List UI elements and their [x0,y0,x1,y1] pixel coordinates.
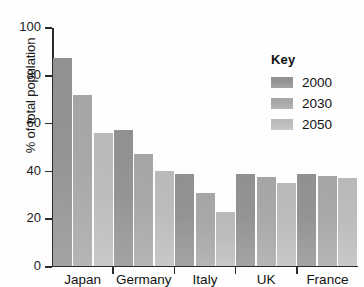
bar [297,174,316,266]
legend-swatch [271,119,293,130]
legend: Key 200020302050 [271,52,332,136]
y-axis-tick: 100 [45,27,52,29]
legend-item: 2000 [271,73,332,92]
bar [318,176,337,266]
bar [277,183,296,265]
y-axis-tick: 40 [45,171,52,173]
legend-entries: 200020302050 [271,73,332,134]
y-axis-tick-label: 20 [27,210,41,225]
legend-swatch [271,98,293,109]
x-axis-label: France [306,272,348,287]
bar-chart: % of total population 020406080100 Japan… [0,0,364,287]
x-axis-label: Germany [116,272,172,287]
bar [155,171,174,265]
bar [94,133,113,266]
y-axis-tick-label: 80 [27,67,41,82]
legend-title: Key [271,52,332,67]
bar [338,178,357,265]
bar [216,212,235,266]
x-axis-line [52,266,358,268]
y-axis-tick-label: 40 [27,163,41,178]
y-axis-tick: 0 [45,266,52,268]
y-axis-tick: 80 [45,75,52,77]
bar [114,130,133,265]
bar [257,177,276,265]
y-axis-tick-label: 0 [34,258,41,273]
x-axis-label: UK [257,272,276,287]
x-axis-group-separator [235,267,237,274]
y-axis-tick-label: 100 [19,19,41,34]
legend-item-label: 2050 [302,118,332,132]
y-axis-tick-label: 60 [27,115,41,130]
legend-item: 2030 [271,94,332,113]
y-axis-tick: 60 [45,123,52,125]
x-axis-label: Japan [64,272,101,287]
bar [175,174,194,266]
bar [53,58,72,266]
legend-swatch [271,77,293,88]
x-axis-group-separator [112,267,114,274]
legend-item: 2050 [271,115,332,134]
bar [236,174,255,266]
legend-item-label: 2000 [302,76,332,90]
legend-item-label: 2030 [302,97,332,111]
bar [196,193,215,266]
y-axis-tick: 20 [45,218,52,220]
bar [73,95,92,266]
x-axis-group-separator [296,267,298,274]
bar [134,154,153,265]
x-axis-group-separator [174,267,176,274]
x-axis-label: Italy [193,272,218,287]
